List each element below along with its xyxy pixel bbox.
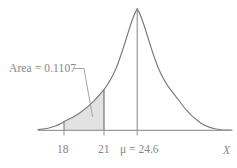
x-tick-label-18: 18 (57, 144, 69, 156)
mean-value-label: μ = 24.6 (120, 144, 159, 156)
distribution-chart-canvas (0, 0, 237, 168)
area-annotation-label: Area = 0.1107 (9, 63, 76, 75)
normal-distribution-figure: Area = 0.1107 18 21 μ = 24.6 X (0, 0, 237, 168)
x-axis-label: X (223, 145, 230, 157)
x-tick-label-21: 21 (98, 144, 110, 156)
